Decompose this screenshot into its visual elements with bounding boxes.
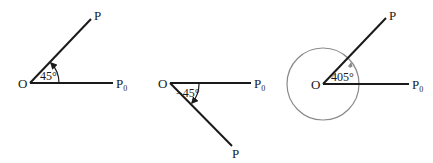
origin-label: O xyxy=(158,76,167,91)
initial-point-label: P0 xyxy=(412,77,423,94)
diagram-positive-angle: O P0 P 45° xyxy=(18,8,127,93)
angle-label: −45° xyxy=(176,86,200,100)
rotation-arrow xyxy=(350,63,351,68)
initial-point-label: P0 xyxy=(254,76,265,93)
terminal-point-label: P xyxy=(232,146,239,161)
diagram-full-rotation-angle: O P0 P 405° xyxy=(287,8,423,120)
angle-label: 45° xyxy=(40,69,57,83)
angle-diagrams: O P0 P 45° O P0 P −45° O P0 P 405° xyxy=(0,0,433,163)
origin-label: O xyxy=(18,76,27,91)
terminal-point-label: P xyxy=(389,8,396,23)
diagram-negative-angle: O P0 P −45° xyxy=(158,76,265,161)
initial-point-label: P0 xyxy=(116,76,127,93)
angle-label: 405° xyxy=(331,70,354,84)
terminal-point-label: P xyxy=(94,8,101,23)
origin-label: O xyxy=(311,77,320,92)
